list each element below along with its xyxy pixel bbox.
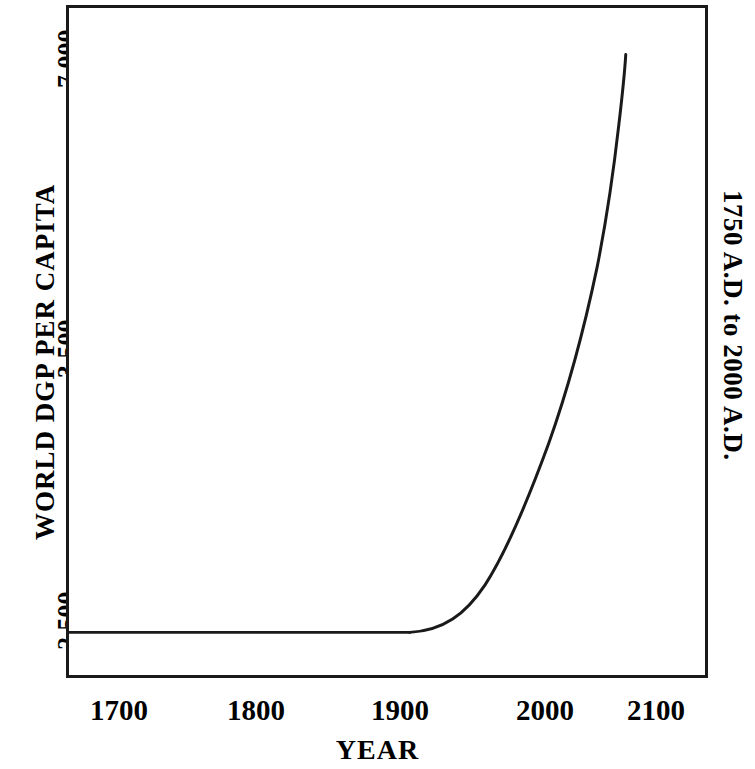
plot-svg	[69, 8, 705, 675]
data-line-growth-curve	[410, 55, 626, 633]
x-tick-label-1900: 1900	[371, 694, 429, 727]
plot-area	[66, 5, 708, 678]
right-side-caption: 1750 A.D. to 2000 A.D.	[717, 190, 748, 461]
x-axis-title: YEAR	[0, 734, 755, 766]
x-tick-label-1700: 1700	[90, 694, 148, 727]
x-tick-label-2000: 2000	[516, 694, 574, 727]
x-tick-label-1800: 1800	[227, 694, 285, 727]
x-tick-label-2100: 2100	[627, 694, 685, 727]
chart-container: WORLD DGP PER CAPITA 7,000 3,500 2,500 1…	[0, 0, 755, 769]
